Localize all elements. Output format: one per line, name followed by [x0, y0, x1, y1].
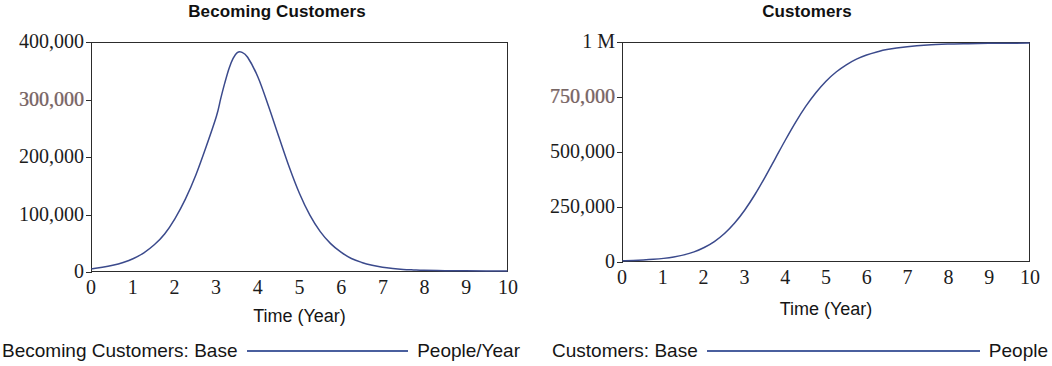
x-axis-tick-label: 8 [943, 266, 953, 288]
x-axis-tick-label: 10 [1020, 266, 1040, 288]
series-line-becoming-customers [92, 52, 507, 271]
y-axis-tick-mark [617, 97, 623, 98]
x-axis-tick-label: 0 [86, 276, 96, 298]
x-axis-tick-label: 5 [295, 276, 305, 298]
y-axis-tick-label: 300,000 [0, 89, 84, 109]
x-axis-tick-label: 4 [780, 266, 790, 288]
x-axis-tick-label: 0 [617, 266, 627, 288]
chart-panel-customers: Customers 1 M750,000500,000250,0000 0123… [526, 0, 1052, 366]
y-axis-tick-mark [617, 262, 623, 263]
y-axis-tick-mark [86, 157, 92, 158]
x-axis-tick-label: 10 [498, 276, 518, 298]
plot-area-customers [622, 42, 1030, 262]
legend-series-name: Customers: Base [552, 340, 698, 362]
x-axis-tick-label: 8 [420, 276, 430, 298]
x-axis-labels-right: 012345678910 [622, 266, 1030, 292]
y-axis-labels-left: 400,000300,000200,000100,0000 [0, 0, 84, 366]
legend-unit-label: People [989, 340, 1048, 362]
legend-unit-label: People/Year [417, 340, 520, 362]
x-axis-tick-label: 7 [903, 266, 913, 288]
y-axis-tick-label: 200,000 [0, 146, 84, 166]
x-axis-tick-label: 2 [699, 266, 709, 288]
chart-panel-becoming-customers: Becoming Customers 400,000300,000200,000… [0, 0, 526, 366]
x-axis-tick-label: 3 [739, 266, 749, 288]
series-line-customers [623, 43, 1029, 261]
y-axis-tick-mark [86, 272, 92, 273]
y-axis-tick-label: 250,000 [526, 196, 615, 216]
y-axis-tick-label: 500,000 [526, 141, 615, 161]
x-axis-tick-label: 5 [821, 266, 831, 288]
x-axis-tick-label: 6 [862, 266, 872, 288]
x-axis-tick-label: 9 [461, 276, 471, 298]
y-axis-tick-label: 100,000 [0, 204, 84, 224]
y-axis-tick-label: 0 [0, 261, 84, 281]
legend-customers: Customers: Base People [552, 340, 1048, 362]
x-axis-tick-label: 1 [658, 266, 668, 288]
legend-series-name: Becoming Customers: Base [2, 340, 238, 362]
y-axis-tick-label: 750,000 [526, 86, 615, 106]
y-axis-labels-right: 1 M750,000500,000250,0000 [526, 0, 615, 366]
legend-line-swatch [247, 350, 409, 352]
legend-becoming-customers: Becoming Customers: Base People/Year [2, 340, 520, 362]
x-axis-labels-left: 012345678910 [91, 276, 508, 302]
y-axis-tick-mark [617, 42, 623, 43]
plot-svg-left [92, 43, 507, 271]
plot-area-becoming-customers [91, 42, 508, 272]
legend-line-swatch [707, 350, 980, 352]
x-axis-tick-label: 7 [378, 276, 388, 298]
chart-page: Becoming Customers 400,000300,000200,000… [0, 0, 1052, 366]
y-axis-tick-mark [617, 152, 623, 153]
y-axis-tick-mark [86, 42, 92, 43]
x-axis-tick-label: 3 [211, 276, 221, 298]
y-axis-tick-mark [86, 215, 92, 216]
y-axis-tick-label: 0 [526, 251, 615, 271]
y-axis-tick-label: 400,000 [0, 31, 84, 51]
plot-svg-right [623, 43, 1029, 261]
x-axis-title: Time (Year) [91, 306, 508, 327]
y-axis-tick-mark [617, 207, 623, 208]
x-axis-title: Time (Year) [622, 299, 1030, 320]
x-axis-tick-label: 9 [984, 266, 994, 288]
x-axis-tick-label: 1 [128, 276, 138, 298]
y-axis-tick-mark [86, 100, 92, 101]
x-axis-tick-label: 2 [169, 276, 179, 298]
y-axis-tick-label: 1 M [526, 31, 615, 51]
x-axis-tick-label: 4 [253, 276, 263, 298]
x-axis-tick-label: 6 [336, 276, 346, 298]
